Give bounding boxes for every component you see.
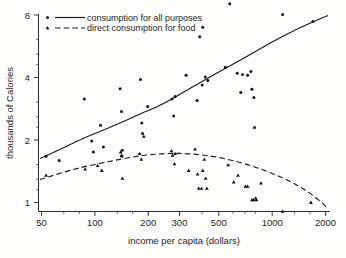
x-axis-title: income per capita (dollars) [128,235,240,246]
trend-line-food [40,153,328,208]
y-axis-title: thousands of Calories [4,67,15,159]
y-axis-ticks [34,15,39,203]
y-tick-label-8: 8 [25,10,30,21]
chart-figure: 8 4 2 1 50 100 200 300 [0,0,346,258]
x-tick-label-200: 200 [140,217,156,228]
x-tick-label-300: 300 [172,217,188,228]
y-tick-label-4: 4 [25,72,30,83]
axis-lines [39,14,331,212]
y-tick-label-2: 2 [25,135,30,146]
legend-marker-triangle [46,26,50,29]
x-tick-label-1000: 1000 [262,217,283,228]
y-tick-label-1: 1 [25,197,30,208]
x-tick-label-2000: 2000 [315,217,336,228]
legend-marker-dot [46,16,49,19]
x-tick-label-500: 500 [211,217,227,228]
scatter-plot: 8 4 2 1 50 100 200 300 [0,0,346,258]
x-tick-label-50: 50 [36,217,47,228]
x-tick-label-100: 100 [87,217,103,228]
chart-legend: consumption for all purposes direct cons… [46,13,203,34]
legend-label-food: direct consumption for food [87,23,196,33]
trend-line-all-purposes [40,16,328,159]
legend-label-all-purposes: consumption for all purposes [87,13,203,23]
